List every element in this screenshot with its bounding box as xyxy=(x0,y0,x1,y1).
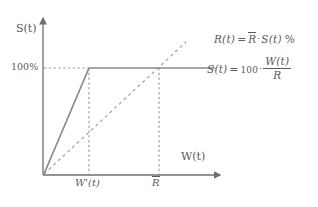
chart-figure: S(t) W(t) 100% W'(t) R R(t)=R·S(t)% S(t)… xyxy=(0,0,318,207)
x-axis-label: W(t) xyxy=(181,150,205,163)
x-tick-rbar-text: R xyxy=(152,177,160,188)
formula-r-st: S(t) xyxy=(261,33,281,45)
formula-r-percent: % xyxy=(282,33,295,45)
y-tick-label-100-percent: 100% xyxy=(11,61,38,72)
x-tick-wprime-text: W'(t) xyxy=(75,177,100,188)
formula-r-equals: = xyxy=(235,33,248,45)
y-axis-label: S(t) xyxy=(16,22,37,35)
formula-r-rbar: R xyxy=(248,33,256,45)
formula-s-denominator: R xyxy=(263,69,291,82)
formula-s-lhs: S(t) xyxy=(207,63,227,75)
x-axis-label-text: W(t) xyxy=(181,150,205,163)
formula-s-equals: = xyxy=(227,63,240,75)
formula-r-of-t: R(t)=R·S(t)% xyxy=(214,33,295,45)
formula-s-coefficient: 100 xyxy=(240,65,258,75)
y-axis-label-text: S(t) xyxy=(16,22,37,35)
formula-s-fraction: W(t)R xyxy=(263,56,291,82)
formula-r-lhs: R(t) xyxy=(214,33,235,45)
x-tick-label-r-bar: R xyxy=(152,177,160,188)
dashed-reference-line xyxy=(44,42,186,174)
x-tick-label-w-prime: W'(t) xyxy=(75,177,100,188)
y-tick-text: 100% xyxy=(11,61,38,72)
formula-s-of-t: S(t)=100·W(t)R xyxy=(207,57,291,83)
